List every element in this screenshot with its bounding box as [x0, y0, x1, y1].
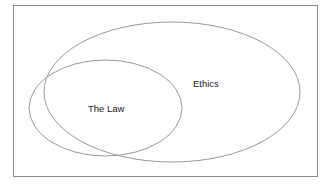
law-label: The Law: [88, 103, 125, 114]
ethics-ellipse: [44, 22, 300, 162]
venn-diagram: Ethics The Law: [0, 0, 327, 186]
ethics-label: Ethics: [193, 78, 219, 89]
diagram-frame: [14, 6, 318, 177]
